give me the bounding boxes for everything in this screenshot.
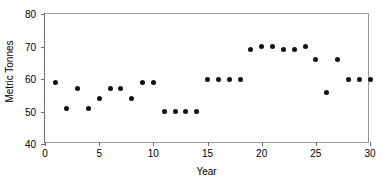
x-tick-label: 10 [148,148,159,159]
data-point [194,109,199,114]
data-point [292,47,297,52]
data-point [216,77,221,82]
data-point [151,80,156,85]
data-point [324,90,329,95]
data-point [140,80,145,85]
data-point [173,109,178,114]
x-tick-mark [370,142,371,146]
data-point [313,57,318,62]
x-tick-mark [316,142,317,146]
data-point [248,47,253,52]
y-tick-label: 50 [25,106,36,117]
y-tick-label: 70 [25,41,36,52]
data-point [281,47,286,52]
y-tick-mark [41,79,45,80]
y-tick-mark [41,112,45,113]
x-tick-label: 0 [42,148,48,159]
scatter-chart: Metric Tonnes 4050607080 051015202530 Ye… [0,0,383,185]
x-tick-label: 5 [96,148,102,159]
x-tick-mark [262,142,263,146]
x-tick-label: 30 [364,148,375,159]
data-point [86,106,91,111]
data-point [270,44,275,49]
y-tick-label: 60 [25,74,36,85]
data-point [64,106,69,111]
data-point [259,44,264,49]
y-tick-mark [41,47,45,48]
y-tick-label: 80 [25,9,36,20]
data-point [227,77,232,82]
data-point [238,77,243,82]
data-point [108,86,113,91]
data-point [205,77,210,82]
x-axis-title-label: Year [196,166,216,177]
y-tick-mark [41,14,45,15]
x-tick-label: 20 [256,148,267,159]
data-point [183,109,188,114]
data-point [335,57,340,62]
data-point [53,80,58,85]
x-tick-label: 15 [202,148,213,159]
y-tick-label: 40 [25,139,36,150]
data-point [368,77,373,82]
y-axis-title: Metric Tonnes [2,0,16,143]
x-tick-label: 25 [310,148,321,159]
x-tick-mark [45,142,46,146]
x-tick-mark [99,142,100,146]
data-point [346,77,351,82]
data-point [357,77,362,82]
data-point [162,109,167,114]
x-tick-mark [208,142,209,146]
data-point [129,96,134,101]
x-tick-mark [153,142,154,146]
plot-area: 4050607080 051015202530 [44,13,369,143]
data-point [75,86,80,91]
y-axis-title-label: Metric Tonnes [4,40,15,102]
data-point [97,96,102,101]
x-axis-title: Year [44,166,369,177]
data-point [118,86,123,91]
data-point [303,44,308,49]
